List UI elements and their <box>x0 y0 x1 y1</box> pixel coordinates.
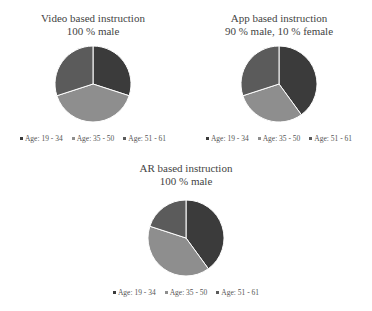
pie-chart <box>53 44 133 124</box>
legend-swatch-icon <box>258 137 261 140</box>
chart-subtitle: 90 % male, 10 % female <box>186 25 372 38</box>
legend-swatch-icon <box>216 291 219 294</box>
legend-swatch-icon <box>113 291 116 294</box>
legend-item: Age: 51 - 61 <box>123 134 166 143</box>
legend-swatch-icon <box>123 137 126 140</box>
chart-app: App based instruction 90 % male, 10 % fe… <box>186 12 372 143</box>
legend-item: Age: 35 - 50 <box>165 288 208 297</box>
legend-item: Age: 35 - 50 <box>258 134 301 143</box>
chart-subtitle: 100 % male <box>93 175 279 188</box>
legend-item: Age: 19 - 34 <box>20 134 63 143</box>
legend-swatch-icon <box>206 137 209 140</box>
legend-item: Age: 51 - 61 <box>309 134 352 143</box>
legend: Age: 19 - 34 Age: 35 - 50 Age: 51 - 61 <box>93 288 279 297</box>
legend-item: Age: 35 - 50 <box>72 134 115 143</box>
chart-title: App based instruction <box>186 12 372 25</box>
legend-item: Age: 51 - 61 <box>216 288 259 297</box>
chart-ar: AR based instruction 100 % male Age: 19 … <box>93 162 279 297</box>
legend: Age: 19 - 34 Age: 35 - 50 Age: 51 - 61 <box>186 134 372 143</box>
legend-swatch-icon <box>20 137 23 140</box>
legend-swatch-icon <box>72 137 75 140</box>
legend: Age: 19 - 34 Age: 35 - 50 Age: 51 - 61 <box>0 134 186 143</box>
legend-swatch-icon <box>309 137 312 140</box>
legend-item: Age: 19 - 34 <box>113 288 156 297</box>
chart-title: Video based instruction <box>0 12 186 25</box>
legend-item: Age: 19 - 34 <box>206 134 249 143</box>
chart-title: AR based instruction <box>93 162 279 175</box>
pie-chart <box>146 198 226 278</box>
pie-chart <box>239 44 319 124</box>
chart-video: Video based instruction 100 % male Age: … <box>0 12 186 143</box>
legend-swatch-icon <box>165 291 168 294</box>
chart-subtitle: 100 % male <box>0 25 186 38</box>
